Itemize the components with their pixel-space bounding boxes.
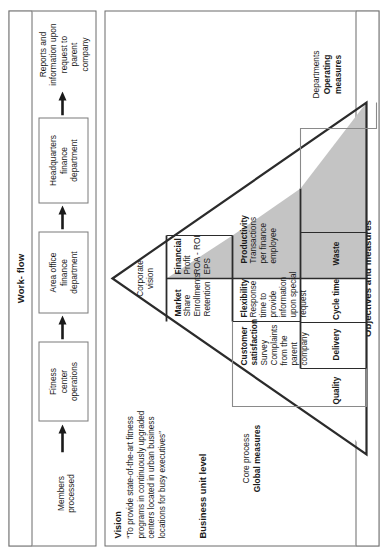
workflow-box-fitness-center-operations[interactable]: Fitness center operations	[38, 341, 88, 421]
productivity-item-3: employee	[268, 227, 277, 263]
customer-satisfaction-item-1: Survey	[259, 340, 268, 365]
customer-satisfaction-item-3: from the parent	[279, 335, 298, 365]
core-process-line1: Core	[240, 465, 250, 483]
workflow-start-label: Members processed	[42, 454, 88, 532]
financial-item-2: ROA - ROI	[192, 235, 201, 274]
workflow-panel-label-line2: flow	[15, 253, 26, 272]
customer-satisfaction-title-line1: Customer	[238, 321, 248, 365]
flexibility-title: Flexibility	[238, 267, 248, 317]
rotated-figure-stage: Work- flow Members processed Fitness cen…	[0, 0, 387, 556]
productivity-item-2: per finance	[258, 222, 267, 263]
apex-line1: Corporate	[135, 260, 145, 296]
figure-canvas: Work- flow Members processed Fitness cen…	[0, 0, 387, 556]
customer-satisfaction-title-line2: satisfaction	[248, 321, 258, 365]
workflow-panel-label-line1: Work-	[15, 275, 26, 302]
pyramid-cell-flexibility[interactable]: Flexibility Response time to provide inf…	[238, 267, 308, 317]
pyramid-cell-waste[interactable]: Waste	[316, 232, 356, 274]
pyramid-cell-quality[interactable]: Quality	[316, 368, 356, 412]
productivity-item-1: Transactions	[248, 216, 257, 263]
pyramid-cell-delivery[interactable]: Delivery	[316, 322, 356, 366]
customer-satisfaction-item-4: company	[299, 332, 308, 365]
financial-item-3: EPS	[202, 258, 211, 274]
workflow-arrow-4	[57, 91, 67, 115]
workflow-arrow-2	[57, 315, 67, 339]
performance-pyramid: Corporate vision Market Share Enrollment…	[104, 10, 379, 546]
flexibility-item-3: upon special	[288, 271, 297, 317]
pyramid-cell-market[interactable]: Market Share Enrollments Retention	[172, 276, 212, 316]
market-title: Market	[172, 276, 182, 316]
flexibility-item-4: request	[298, 290, 307, 317]
flexibility-item-2: provide information	[268, 276, 287, 317]
flexibility-item-1: Response time to	[248, 280, 267, 317]
market-item-2: Enrollments	[192, 273, 201, 316]
financial-item-1: Profit	[182, 255, 191, 274]
pyramid-apex-corporate-vision[interactable]: Corporate vision	[126, 242, 164, 314]
market-item-1: Share	[182, 294, 191, 316]
workflow-end-label: Reports and information upon request to …	[34, 18, 92, 90]
workflow-box-headquarters-finance-department[interactable]: Headquarters finance department	[38, 117, 88, 203]
market-item-3: Retention	[202, 281, 211, 316]
pyramid-cell-financial[interactable]: Financial Profit ROA - ROI EPS	[172, 230, 212, 274]
financial-title: Financial	[172, 230, 182, 274]
customer-satisfaction-item-2: Complaints	[269, 324, 278, 365]
apex-line2: vision	[145, 268, 155, 289]
side-label-core-process-global-measures: Core process Global measures	[240, 412, 262, 504]
departments-label: Departments	[310, 50, 320, 98]
pyramid-cell-productivity[interactable]: Productivity Transactions per finance em…	[238, 211, 278, 263]
global-measures-label: Global measures	[251, 412, 262, 504]
pyramid-cell-customer-satisfaction[interactable]: Customer satisfaction Survey Complaints …	[238, 321, 309, 365]
workflow-box-area-office-finance-department[interactable]: Area office finance department	[38, 231, 88, 313]
productivity-title: Productivity	[238, 211, 248, 263]
workflow-panel-label: Work- flow	[8, 10, 32, 546]
workflow-arrow-1	[57, 424, 67, 452]
core-process-line2: process	[240, 433, 250, 462]
workflow-arrow-3	[57, 205, 67, 229]
operating-label: Operating	[321, 26, 332, 122]
side-label-departments-operating-measures: Departments Operating measures	[310, 26, 343, 122]
pyramid-cell-cycle-time[interactable]: Cycle time	[316, 278, 356, 320]
measures-label: measures	[332, 26, 343, 122]
